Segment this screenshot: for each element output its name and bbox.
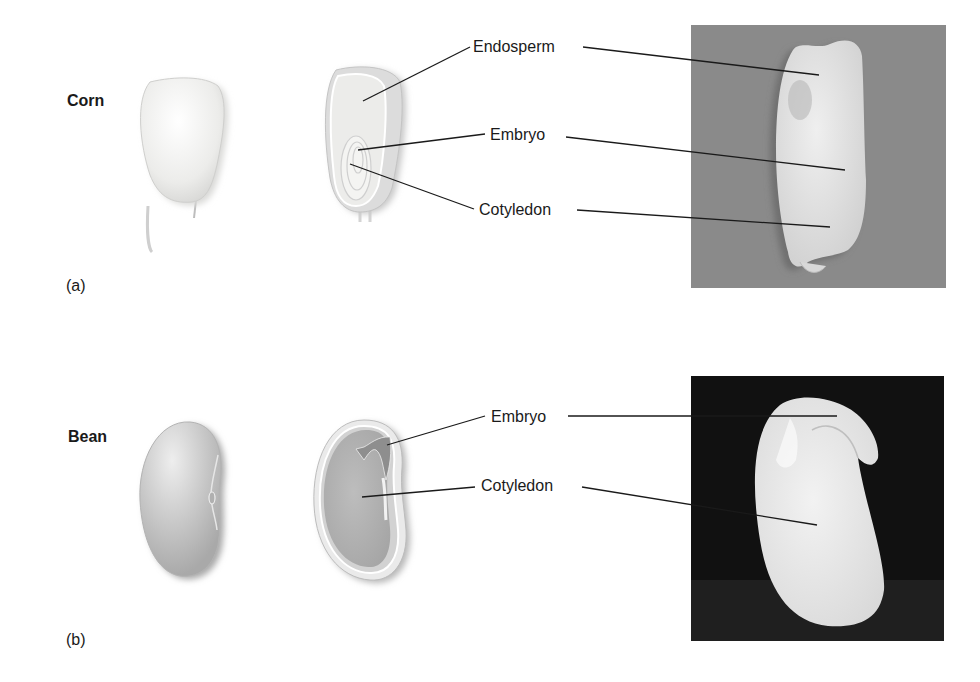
corn-whole-illustration — [141, 78, 229, 252]
callout-corn-endosperm: Endosperm — [473, 38, 555, 56]
species-label-corn: Corn — [67, 92, 104, 110]
callout-corn-embryo: Embryo — [490, 126, 545, 144]
leader-bean-embryo-left — [387, 416, 485, 445]
species-label-bean: Bean — [68, 428, 107, 446]
callout-corn-cotyledon: Cotyledon — [479, 201, 551, 219]
figure-graphics — [0, 0, 980, 682]
bean-section-illustration — [314, 420, 410, 583]
panel-label-b: (b) — [66, 631, 86, 649]
callout-bean-embryo: Embryo — [491, 408, 546, 426]
corn-section-illustration — [325, 67, 406, 222]
bean-whole-illustration — [140, 422, 225, 579]
callout-bean-cotyledon: Cotyledon — [481, 477, 553, 495]
panel-label-a: (a) — [66, 277, 86, 295]
